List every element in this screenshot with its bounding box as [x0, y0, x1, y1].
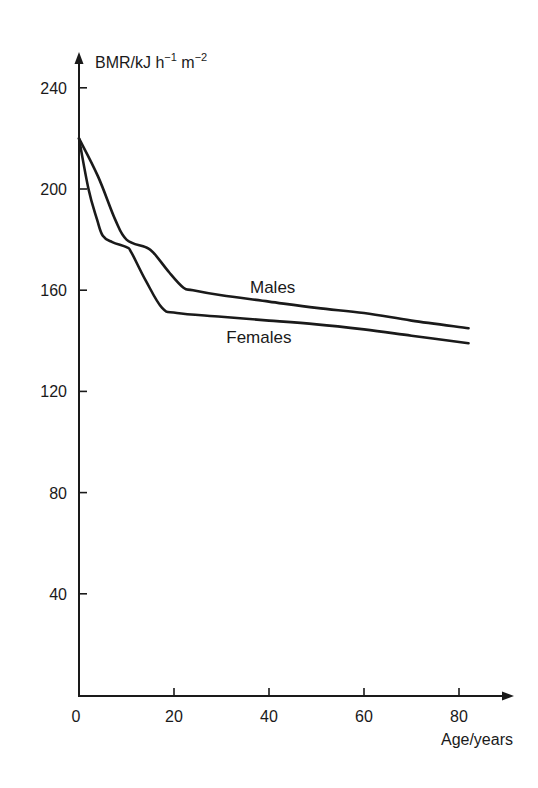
x-axis-title: Age/years	[441, 731, 513, 748]
females-label: Females	[226, 328, 291, 347]
y-tick-label: 40	[49, 586, 67, 603]
x-tick-label: 80	[450, 708, 468, 725]
y-axis-arrow-icon	[75, 52, 84, 64]
y-axis-title: BMR/kJ h−1 m−2	[95, 51, 207, 71]
males-curve	[79, 138, 469, 328]
males-label: Males	[250, 278, 295, 297]
y-tick-label: 240	[40, 80, 67, 97]
x-tick-label: 0	[72, 708, 81, 725]
x-ticks: 020406080	[72, 688, 468, 725]
y-tick-label: 200	[40, 181, 67, 198]
series-group: MalesFemales	[79, 138, 469, 347]
y-tick-label: 120	[40, 383, 67, 400]
x-axis-arrow-icon	[502, 692, 514, 701]
x-tick-label: 60	[355, 708, 373, 725]
y-tick-label: 80	[49, 485, 67, 502]
x-tick-label: 40	[260, 708, 278, 725]
females-curve	[79, 138, 469, 343]
y-tick-label: 160	[40, 282, 67, 299]
x-tick-label: 20	[165, 708, 183, 725]
bmr-age-chart: 4080120160200240 020406080 BMR/kJ h−1 m−…	[0, 0, 538, 788]
